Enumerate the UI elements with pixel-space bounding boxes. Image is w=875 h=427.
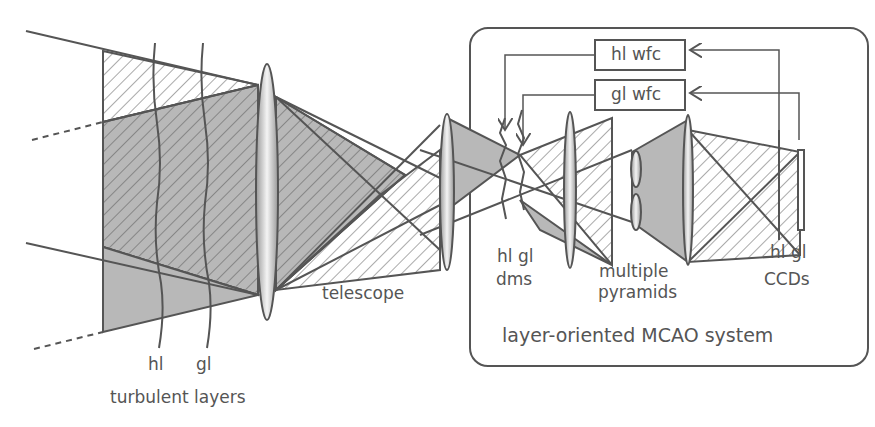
hl-wfc-label: hl wfc <box>611 45 661 65</box>
telescope-label: telescope <box>322 284 404 304</box>
pyramids-label-2: pyramids <box>598 283 677 303</box>
ccds-label: CCDs <box>764 270 810 290</box>
system-label: layer-oriented MCAO system <box>502 325 773 347</box>
mcao-diagram <box>0 0 875 427</box>
ccds-hl-gl-label: hl gl <box>770 243 806 263</box>
gl-wfc-label: gl wfc <box>611 85 661 105</box>
turbulent-layers-label: turbulent layers <box>110 388 246 408</box>
dms-label: dms <box>496 270 532 290</box>
collimator-lens <box>440 114 454 270</box>
relay-lens <box>564 112 576 268</box>
ccd <box>798 150 804 230</box>
camera-lens <box>683 115 693 265</box>
gl-layer-label: gl <box>196 355 212 375</box>
telescope-lens <box>256 64 278 320</box>
pyramids-label-1: multiple <box>599 262 668 282</box>
dms-hl-gl-label: hl gl <box>497 247 533 267</box>
pyramid-1 <box>631 151 641 187</box>
hl-layer-label: hl <box>148 355 164 375</box>
pyramid-2 <box>631 194 641 230</box>
